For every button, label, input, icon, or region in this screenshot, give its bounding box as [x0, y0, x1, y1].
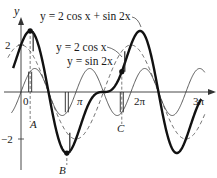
- point-label-B: B: [59, 164, 66, 176]
- point-label-C: C: [117, 122, 125, 134]
- y-tick-label-neg2: −2: [1, 133, 13, 145]
- legend-sum: y = 2 cos x + sin 2x: [40, 10, 131, 23]
- x-tick-label-0: 0: [23, 95, 29, 107]
- x-tick-label-pi: π: [77, 95, 83, 107]
- legend-sum-leader: [132, 17, 141, 27]
- y-tick-label-2: 2: [5, 39, 11, 51]
- legend-cos: y = 2 cos x: [56, 41, 107, 54]
- y-axis-arrow-icon: [18, 17, 24, 25]
- x-tick-label-3pi: 3π: [193, 95, 205, 107]
- x-axis-arrow-icon: [208, 89, 216, 95]
- point-label-A: A: [29, 118, 37, 130]
- legend-sin: y = sin 2x: [67, 55, 113, 68]
- y-axis-label: y: [13, 4, 20, 18]
- x-tick-label-2pi: 2π: [134, 95, 146, 107]
- function-graph: y 2 −2 0 π 2π 3π A B C y = 2 cos x + sin…: [0, 0, 217, 178]
